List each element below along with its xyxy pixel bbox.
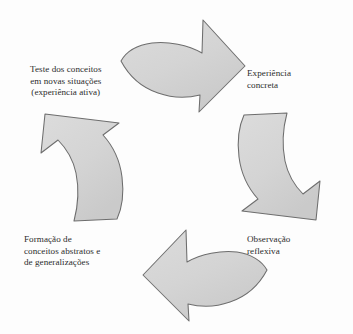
stage-label-reflective-observation: Observação reflexiva (247, 234, 290, 257)
stage-label-concrete-experience: Experiência concreta (247, 68, 291, 91)
stage-label-line: Teste dos conceitos (30, 64, 102, 76)
stage-label-line: Formação de (24, 234, 100, 246)
stage-label-line: conceitos abstratos e (24, 246, 100, 258)
diagram-canvas: Teste dos conceitos em novas situações (… (0, 0, 353, 334)
arrow-top-icon (121, 20, 245, 112)
stage-label-line: (experiência ativa) (30, 87, 102, 99)
stage-label-line: Observação (247, 234, 290, 246)
stage-label-line: de generalizações (24, 257, 100, 269)
arrow-right-icon (238, 113, 320, 220)
stage-label-line: reflexiva (247, 246, 290, 258)
stage-label-abstract-conceptualization: Formação de conceitos abstratos e de gen… (24, 234, 100, 269)
cycle-arrows-group (0, 0, 353, 334)
stage-label-line: em novas situações (30, 76, 102, 88)
stage-label-active-experimentation: Teste dos conceitos em novas situações (… (30, 64, 102, 99)
stage-label-line: concreta (247, 80, 291, 92)
arrow-left-icon (41, 114, 123, 221)
stage-label-line: Experiência (247, 68, 291, 80)
